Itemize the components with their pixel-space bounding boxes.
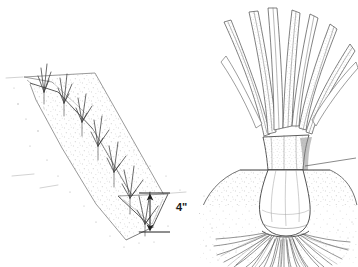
blanched-shank — [259, 170, 310, 236]
leek-leaves — [221, 8, 358, 136]
illustration-page: 4" — [0, 0, 358, 267]
mature-leek-group — [200, 8, 358, 267]
soil-line-leader — [305, 158, 356, 166]
botanical-illustration — [0, 0, 358, 267]
leek-sheath — [263, 135, 312, 170]
planting-trench-group — [6, 64, 186, 248]
trench-depth-label: 4" — [176, 202, 187, 213]
